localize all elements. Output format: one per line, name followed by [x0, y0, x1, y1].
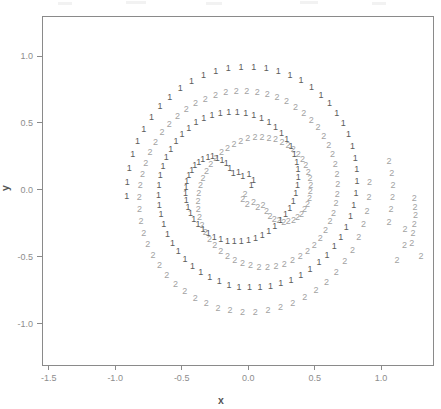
- data-point-glyph: 1: [251, 62, 256, 72]
- data-point-glyph: 2: [330, 149, 335, 159]
- data-point-glyph: 2: [140, 169, 145, 179]
- data-point-glyph: 2: [324, 277, 329, 287]
- data-point-glyph: 1: [316, 257, 321, 267]
- data-point-glyph: 2: [255, 202, 260, 212]
- data-point-glyph: 2: [164, 270, 169, 280]
- scan-artifacts: [58, 1, 386, 5]
- data-point-glyph: 1: [173, 136, 178, 146]
- data-point-glyph: 2: [245, 199, 250, 209]
- y-axis: -1.0-0.50.00.51.0 y: [0, 51, 42, 328]
- data-point-glyph: 1: [354, 176, 359, 186]
- data-point-glyph: 2: [335, 169, 340, 179]
- data-point-glyph: 2: [248, 260, 253, 270]
- data-point-glyph: 1: [247, 282, 252, 292]
- data-point-glyph: 1: [239, 62, 244, 72]
- data-point-glyph: 1: [246, 169, 251, 179]
- data-point-glyph: 2: [151, 250, 156, 260]
- plot-frame: [42, 16, 433, 365]
- data-point-glyph: 2: [419, 251, 424, 261]
- data-point-glyph: 2: [153, 137, 158, 147]
- data-point-glyph: 1: [260, 230, 265, 240]
- data-point-glyph: 1: [266, 226, 271, 236]
- data-point-glyph: 1: [259, 113, 264, 123]
- data-point-glyph: 1: [190, 261, 195, 271]
- data-point-glyph: 2: [290, 298, 295, 308]
- data-point-glyph: 1: [141, 124, 146, 134]
- data-point-glyph: 2: [342, 256, 347, 266]
- data-point-glyph: 2: [148, 147, 153, 157]
- data-point-glyph: 1: [156, 180, 161, 190]
- data-point-glyph: 1: [189, 76, 194, 86]
- data-point-glyph: 1: [176, 246, 181, 256]
- data-point-glyph: 1: [264, 63, 269, 73]
- data-point-glyph: 1: [226, 107, 231, 117]
- data-point-glyph: 2: [335, 179, 340, 189]
- data-point-glyph: 2: [298, 251, 303, 261]
- data-point-glyph: 2: [350, 245, 355, 255]
- data-point-glyph: 2: [157, 260, 162, 270]
- figure-container: -1.5-1.0-0.50.00.51.0 x -1.0-0.50.00.51.…: [0, 0, 441, 409]
- data-point-glyph: 1: [354, 164, 359, 174]
- data-point-glyph: 2: [184, 104, 189, 114]
- data-point-glyph: 2: [403, 224, 408, 234]
- data-point-glyph: 1: [243, 108, 248, 118]
- data-point-glyph: 2: [313, 285, 318, 295]
- data-point-glyph: 1: [158, 101, 163, 111]
- data-point-glyph: 2: [333, 198, 338, 208]
- data-point-glyph: 2: [395, 255, 400, 265]
- data-point-glyph: 2: [361, 219, 366, 229]
- data-point-glyph: 2: [282, 259, 287, 269]
- data-point-glyph: 1: [251, 175, 256, 185]
- data-point-glyph: 1: [135, 136, 140, 146]
- data-point-glyph: 2: [203, 94, 208, 104]
- data-point-glyph: 1: [327, 98, 332, 108]
- data-point-glyph: 1: [167, 92, 172, 102]
- x-axis: -1.5-1.0-0.50.00.51.0 x: [41, 365, 387, 406]
- data-point-glyph: 1: [194, 117, 199, 127]
- data-point-glyph: 1: [334, 108, 339, 118]
- data-point-glyph: 1: [224, 158, 229, 168]
- data-point-glyph: 1: [246, 235, 251, 245]
- data-point-glyph: 1: [225, 236, 230, 246]
- data-point-glyph: 1: [209, 110, 214, 120]
- data-point-glyph: 1: [201, 70, 206, 80]
- data-point-glyph: 2: [223, 87, 228, 97]
- data-point-glyph: 1: [324, 250, 329, 260]
- data-point-glyph: 1: [351, 200, 356, 210]
- x-tick-label: 0.5: [308, 373, 321, 383]
- y-tick-label: 1.0: [20, 51, 33, 61]
- data-point-glyph: 1: [268, 281, 273, 291]
- data-point-glyph: 1: [200, 224, 205, 234]
- data-point-glyph: 2: [387, 156, 392, 166]
- data-point-glyph: 2: [143, 158, 148, 168]
- data-point-glyph: 2: [273, 261, 278, 271]
- data-point-glyph: 1: [168, 144, 173, 154]
- data-point-glyph: 2: [141, 228, 146, 238]
- y-tick-label: 0.0: [20, 185, 33, 195]
- data-point-glyph: 2: [309, 115, 314, 125]
- data-point-glyph: 2: [334, 267, 339, 277]
- data-point-glyph: 1: [298, 270, 303, 280]
- x-axis-title: x: [218, 394, 224, 406]
- data-point-glyph: 2: [137, 204, 142, 214]
- data-point-glyph: 1: [346, 129, 351, 139]
- data-point-glyph: 2: [265, 305, 270, 315]
- data-point-glyph: 2: [293, 102, 298, 112]
- data-point-glyph: 2: [326, 140, 331, 150]
- data-point-glyph: 2: [305, 246, 310, 256]
- data-point-glyph: 2: [204, 298, 209, 308]
- data-point-glyph: 2: [389, 204, 394, 214]
- data-point-glyph: 1: [318, 90, 323, 100]
- data-point-glyph: 2: [409, 238, 414, 248]
- data-point-glyph: 1: [218, 234, 223, 244]
- data-point-glyph: 2: [173, 279, 178, 289]
- data-point-glyph: 1: [226, 280, 231, 290]
- data-point-glyph: 1: [239, 236, 244, 246]
- data-point-glyph: 1: [348, 211, 353, 221]
- data-point-glyph: 1: [273, 122, 278, 132]
- data-point-glyph: 1: [344, 222, 349, 232]
- data-point-glyph: 2: [390, 192, 395, 202]
- data-point-glyph: 1: [338, 232, 343, 242]
- data-point-glyph: 2: [232, 255, 237, 265]
- data-point-glyph: 2: [265, 89, 270, 99]
